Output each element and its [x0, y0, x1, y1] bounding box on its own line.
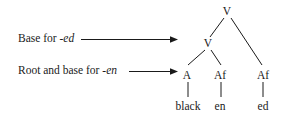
tree-node-v-inner: V	[204, 38, 212, 50]
tree-terminal-ed: ed	[258, 101, 269, 113]
tree-terminal-black: black	[176, 101, 201, 113]
tree-node-af-ed: Af	[257, 70, 269, 82]
edge-vroot-afed	[231, 18, 262, 65]
annotation-base-for-ed: Base for -ed	[18, 33, 74, 45]
annotation-root-and-base-for-en-text: Root and base for	[18, 64, 102, 76]
arrow-root-and-base-for-en	[129, 68, 178, 75]
arrow-base-for-ed	[81, 36, 178, 43]
tree-node-a: A	[183, 70, 191, 82]
edge-vinner-a	[188, 50, 205, 65]
annotation-base-for-ed-text: Base for	[18, 32, 60, 44]
tree-node-v-root: V	[223, 6, 231, 18]
figure-canvas: Base for -ed Root and base for -en V V A…	[0, 0, 293, 122]
annotation-root-and-base-for-en: Root and base for -en	[18, 65, 117, 77]
edge-vroot-vinner	[210, 18, 224, 37]
annotation-base-for-ed-affix: -ed	[60, 32, 75, 44]
tree-edges	[0, 0, 293, 122]
annotation-root-and-base-for-en-affix: -en	[102, 64, 117, 76]
edge-vinner-afen	[211, 50, 221, 65]
tree-node-af-en: Af	[214, 70, 226, 82]
tree-terminal-en: en	[215, 101, 226, 113]
